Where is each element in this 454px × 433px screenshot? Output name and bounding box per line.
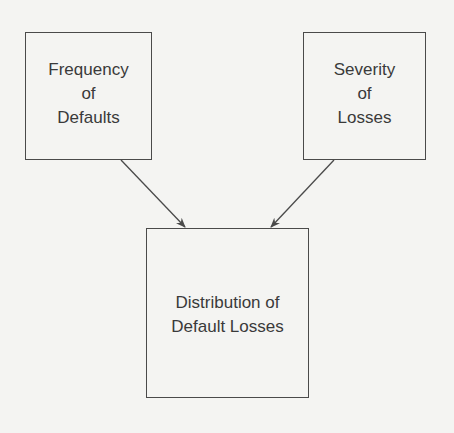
- label-line: Frequency: [26, 58, 151, 82]
- frequency-of-defaults-box: Frequency of Defaults: [25, 32, 152, 160]
- label-line: of: [26, 82, 151, 106]
- distribution-of-default-losses-label: Distribution of Default Losses: [147, 291, 308, 339]
- label-line: Default Losses: [147, 315, 308, 339]
- label-line: Distribution of: [147, 291, 308, 315]
- arrow-severity-to-distribution: [271, 160, 334, 227]
- label-line: Defaults: [26, 106, 151, 130]
- arrow-frequency-to-distribution: [121, 160, 185, 227]
- label-line: of: [304, 82, 425, 106]
- distribution-of-default-losses-box: Distribution of Default Losses: [146, 228, 309, 398]
- flow-diagram: Frequency of Defaults Severity of Losses…: [0, 0, 454, 433]
- label-line: Severity: [304, 58, 425, 82]
- severity-of-losses-box: Severity of Losses: [303, 32, 426, 160]
- severity-of-losses-label: Severity of Losses: [304, 58, 425, 130]
- label-line: Losses: [304, 106, 425, 130]
- frequency-of-defaults-label: Frequency of Defaults: [26, 58, 151, 130]
